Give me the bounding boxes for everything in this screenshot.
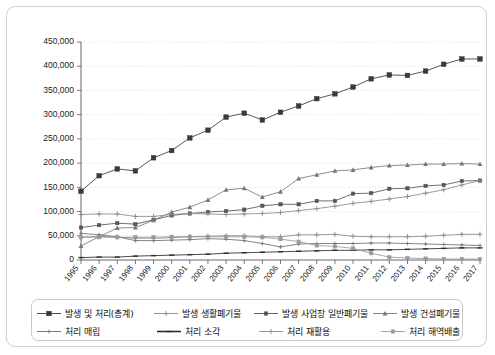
x-axis-tick-label: 1996 <box>81 263 99 283</box>
line-chart-svg: 050,000100,000150,000200,000250,000300,0… <box>7 7 488 293</box>
y-axis-tick-label: 0 <box>69 254 74 264</box>
x-axis-tick-label: 2017 <box>462 263 480 283</box>
x-axis-tick-label: 2000 <box>153 263 171 283</box>
legend-row-1: 발생 및 처리(총계) 발생 생활폐기물 발생 사업장 일반폐기물 발생 건설폐… <box>36 304 460 322</box>
legend-label-recycling: 처리 재활용 <box>287 325 330 338</box>
x-axis-tick-label: 2003 <box>208 263 226 283</box>
x-axis-tick-label: 1997 <box>99 263 117 283</box>
x-axis-tick-label: 2016 <box>443 263 461 283</box>
legend-label-incineration: 처리 소각 <box>185 325 220 338</box>
legend-marker-recycling <box>258 326 284 337</box>
legend-item-total[interactable]: 발생 및 처리(총계) <box>36 304 153 322</box>
x-axis-tick-label: 1995 <box>63 263 81 283</box>
chart-panel: 050,000100,000150,000200,000250,000300,0… <box>6 6 487 347</box>
x-axis-tick-label: 2010 <box>335 263 353 283</box>
legend-label-construction: 발생 건설폐기물 <box>401 307 460 320</box>
legend-item-construction[interactable]: 발생 건설폐기물 <box>372 304 460 322</box>
x-axis-tick-label: 2013 <box>389 263 407 283</box>
legend-item-incineration[interactable]: 처리 소각 <box>156 322 259 340</box>
x-axis-tick-label: 2005 <box>244 263 262 283</box>
legend-label-total: 발생 및 처리(총계) <box>65 307 134 320</box>
legend-marker-construction <box>372 308 398 319</box>
y-axis-tick-label: 100,000 <box>43 206 74 216</box>
y-axis-tick-label: 50,000 <box>48 230 74 240</box>
legend-label-industrial: 발생 사업장 일반폐기물 <box>282 307 368 320</box>
x-axis-tick-label: 2002 <box>189 263 207 283</box>
legend-item-recycling[interactable]: 처리 재활용 <box>258 322 380 340</box>
legend-item-ocean-dumping[interactable]: 처리 해역배출 <box>380 322 460 340</box>
series-5 <box>78 248 482 258</box>
series-0 <box>79 57 483 194</box>
legend-item-household[interactable]: 발생 생활폐기물 <box>153 304 253 322</box>
x-axis-tick-label: 2001 <box>171 263 189 283</box>
x-axis-tick-label: 2007 <box>280 263 298 283</box>
y-axis-tick-label: 450,000 <box>43 36 74 46</box>
x-axis-tick-label: 2012 <box>371 263 389 283</box>
legend-marker-ocean-dumping <box>380 326 406 337</box>
y-axis-tick-label: 200,000 <box>43 157 74 167</box>
legend-marker-industrial <box>253 308 279 319</box>
series-6 <box>78 178 482 219</box>
x-axis-tick-label: 1999 <box>135 263 153 283</box>
legend-row-2: 처리 매립 처리 소각 처리 재활용 처리 해역배출 <box>36 322 460 340</box>
y-axis-tick-label: 400,000 <box>43 60 74 70</box>
legend-marker-incineration <box>156 326 182 337</box>
legend-label-household: 발생 생활폐기물 <box>182 307 241 320</box>
legend-item-landfill[interactable]: 처리 매립 <box>36 322 156 340</box>
x-axis-tick-label: 2004 <box>226 263 244 283</box>
legend-marker-household <box>153 308 179 319</box>
legend-label-landfill: 처리 매립 <box>65 325 100 338</box>
x-axis-tick-label: 1998 <box>117 263 135 283</box>
y-axis-tick-label: 350,000 <box>43 85 74 95</box>
chart-plot-area: 050,000100,000150,000200,000250,000300,0… <box>7 7 488 293</box>
legend-label-ocean-dumping: 처리 해역배출 <box>409 325 460 338</box>
legend-marker-total <box>36 308 62 319</box>
legend-item-industrial[interactable]: 발생 사업장 일반폐기물 <box>253 304 372 322</box>
series-2 <box>79 179 481 229</box>
x-axis-tick-label: 2009 <box>316 263 334 283</box>
y-axis-tick-label: 150,000 <box>43 182 74 192</box>
x-axis-tick-label: 2008 <box>298 263 316 283</box>
chart-legend: 발생 및 처리(총계) 발생 생활폐기물 발생 사업장 일반폐기물 발생 건설폐… <box>31 299 463 341</box>
y-axis-tick-label: 300,000 <box>43 109 74 119</box>
x-axis-tick-label: 2014 <box>407 263 425 283</box>
x-axis-tick-label: 2011 <box>353 263 371 283</box>
x-axis-tick-label: 2015 <box>425 263 443 283</box>
y-axis-tick-label: 250,000 <box>43 133 74 143</box>
legend-marker-landfill <box>36 326 62 337</box>
x-axis-tick-label: 2006 <box>262 263 280 283</box>
